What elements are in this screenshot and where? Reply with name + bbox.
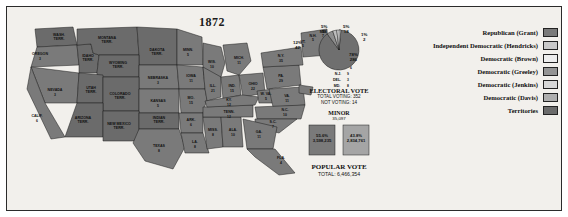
svg-text:TERR.: TERR. (54, 37, 65, 41)
svg-text:15: 15 (189, 101, 193, 105)
pie-label-hendricks: 5%18 (321, 24, 327, 34)
svg-text:3: 3 (157, 81, 159, 85)
svg-text:CALIF.: CALIF. (31, 114, 42, 118)
svg-text:6: 6 (36, 119, 38, 123)
state-minnesota (177, 29, 203, 65)
svg-text:KANSAS: KANSAS (150, 99, 166, 103)
svg-text:10: 10 (283, 113, 287, 117)
statistics-panel: 5%18 5%18 1%2 78%286 12%42 ELECTORAL VOT… (293, 26, 385, 177)
state-florida (247, 149, 295, 175)
legend-label: Democratic (Jenkins) (478, 81, 543, 89)
legend-item-democratic-davis: Democratic (Davis) (408, 91, 558, 104)
svg-text:TERR.: TERR. (152, 52, 163, 56)
minor-value: 35,097 (293, 116, 385, 122)
legend-item-independent-democratic-hendricks: Independent Democratic (Hendricks) (408, 39, 558, 52)
svg-text:FLA.: FLA. (277, 156, 285, 160)
state-alabama (221, 117, 243, 147)
legend-swatch (543, 80, 558, 89)
svg-text:3: 3 (39, 57, 41, 61)
svg-text:7: 7 (272, 125, 274, 129)
svg-text:12: 12 (227, 103, 231, 107)
svg-text:WIS.: WIS. (208, 60, 216, 64)
svg-text:TERR.: TERR. (115, 96, 126, 100)
electoral-pie-chart: 5%18 5%18 1%2 78%286 12%42 (293, 26, 385, 86)
svg-text:TERR.: TERR. (114, 126, 125, 130)
svg-text:35: 35 (279, 59, 283, 63)
legend-label: Democratic (Davis) (484, 94, 543, 102)
svg-text:LA.: LA. (192, 140, 198, 144)
legend-item-democratic-jenkins: Democratic (Jenkins) (408, 78, 558, 91)
svg-text:11: 11 (285, 99, 289, 103)
popular-vote-heading: POPULAR VOTE (293, 163, 385, 171)
svg-text:TEXAS: TEXAS (153, 144, 166, 148)
legend: Republican (Grant) Independent Democrati… (408, 26, 558, 117)
legend-label: Democratic (Brown) (480, 55, 543, 63)
svg-text:N.Y.: N.Y. (278, 54, 285, 58)
svg-text:TENN.: TENN. (224, 110, 235, 114)
legend-swatch (543, 41, 558, 50)
legend-label: Democratic (Greeley) (478, 68, 543, 76)
svg-text:11: 11 (189, 79, 193, 83)
svg-text:15: 15 (230, 89, 234, 93)
legend-label: Independent Democratic (Hendricks) (433, 42, 543, 50)
svg-text:5: 5 (157, 104, 159, 108)
state-oregon (31, 45, 79, 67)
pie-label-brown: 5%18 (343, 24, 349, 34)
legend-swatch (543, 67, 558, 76)
svg-text:TERR.: TERR. (86, 90, 97, 94)
legend-item-territories: Territories (408, 104, 558, 117)
electoral-not-voting: NOT VOTING: 14 (293, 100, 385, 106)
state-dakota (137, 27, 177, 65)
svg-text:10: 10 (210, 65, 214, 69)
svg-text:29: 29 (279, 79, 283, 83)
svg-text:5: 5 (187, 53, 189, 57)
pie-svg (293, 26, 385, 72)
svg-text:TERR.: TERR. (113, 65, 124, 69)
svg-text:KY.: KY. (226, 98, 232, 102)
svg-text:TERR.: TERR. (102, 40, 113, 44)
legend-swatch (543, 93, 558, 102)
svg-text:ARK.: ARK. (187, 118, 196, 122)
legend-label: Republican (Grant) (483, 29, 544, 37)
svg-text:11: 11 (237, 61, 241, 65)
svg-text:OREGON: OREGON (32, 52, 48, 56)
svg-text:NEVADA: NEVADA (48, 88, 63, 92)
legend-swatch (543, 54, 558, 63)
legend-swatch (543, 106, 558, 115)
svg-text:8: 8 (158, 149, 160, 153)
svg-text:GA.: GA. (256, 130, 262, 134)
svg-text:TERR.: TERR. (83, 58, 94, 62)
popular-vote-total: TOTAL: 6,466,354 (293, 171, 385, 177)
electoral-vote-heading: ELECTORAL VOTE (293, 87, 385, 94)
svg-text:MO.: MO. (188, 96, 195, 100)
svg-text:MICH.: MICH. (234, 56, 244, 60)
svg-text:IND.: IND. (228, 84, 235, 88)
svg-text:IOWA: IOWA (186, 74, 196, 78)
svg-text:8: 8 (194, 145, 196, 149)
svg-text:N.C.: N.C. (281, 108, 288, 112)
map-shapes (27, 27, 329, 175)
svg-text:MISS.: MISS. (208, 128, 218, 132)
svg-text:3: 3 (54, 93, 56, 97)
svg-text:PA.: PA. (278, 74, 284, 78)
svg-text:MINN.: MINN. (183, 48, 193, 52)
svg-text:ALA.: ALA. (229, 128, 237, 132)
svg-text:VA.: VA. (284, 94, 290, 98)
pie-label-greeley: 12%42 (293, 40, 302, 50)
legend-item-democratic-brown: Democratic (Brown) (408, 52, 558, 65)
popular-vote-bars: 55.6%3,598,235 43.8%2,834,761 (293, 123, 385, 157)
svg-text:ILL.: ILL. (210, 84, 216, 88)
map-figure: 1872 (0, 0, 568, 217)
svg-text:10: 10 (231, 133, 235, 137)
svg-text:OHIO: OHIO (248, 82, 257, 86)
svg-text:TERR.: TERR. (78, 120, 89, 124)
svg-text:11: 11 (257, 135, 261, 139)
svg-text:12: 12 (227, 115, 231, 119)
svg-text:22: 22 (251, 87, 255, 91)
svg-text:5: 5 (265, 97, 267, 101)
svg-text:TERR.: TERR. (154, 120, 165, 124)
svg-text:8: 8 (212, 133, 214, 137)
bar-label-greeley: 43.8%2,834,761 (337, 133, 375, 143)
pie-label-jenkins: 1%2 (361, 32, 367, 42)
svg-text:6: 6 (190, 123, 192, 127)
